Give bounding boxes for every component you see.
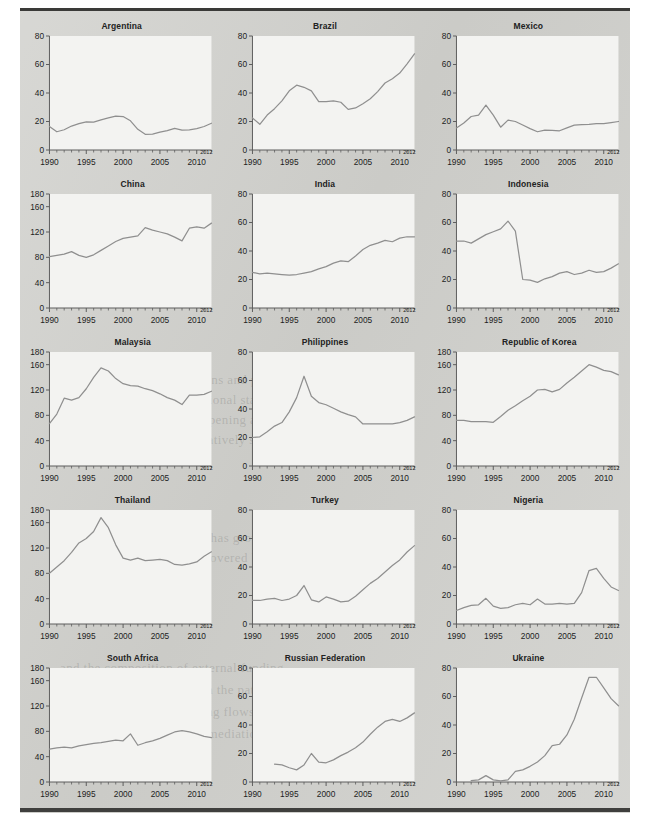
line-chart: 020406080199019952000200520102012	[427, 32, 626, 174]
x-end-label: 2012	[200, 149, 212, 155]
line-chart: 020406080199019952000200520102012	[223, 190, 422, 332]
y-tick-label: 160	[30, 676, 44, 686]
x-end-label: 2012	[404, 781, 416, 787]
plot-area: 020406080199019952000200520102012	[427, 664, 626, 806]
x-tick-label: 1990	[447, 789, 466, 799]
chart-panel: Argentina0204060801990199520002005201020…	[20, 16, 223, 174]
plot-area: 020406080199019952000200520102012	[223, 506, 422, 648]
y-tick-label: 80	[238, 190, 248, 199]
y-tick-label: 60	[441, 691, 451, 701]
y-tick-label: 80	[441, 664, 451, 673]
y-tick-label: 20	[35, 116, 45, 126]
x-tick-label: 2000	[317, 157, 336, 167]
x-tick-label: 2010	[391, 315, 410, 325]
y-tick-label: 0	[39, 619, 44, 629]
x-tick-label: 1990	[447, 157, 466, 167]
x-end-label: 2012	[200, 623, 212, 629]
chart-panel: Republic of Korea04080120160180199019952…	[427, 332, 630, 490]
chart-panel: Mexico020406080199019952000200520102012	[427, 16, 630, 174]
x-tick-label: 1995	[484, 631, 503, 641]
y-tick-label: 80	[441, 32, 451, 41]
line-chart: 04080120160180199019952000200520102012	[20, 190, 219, 332]
plot-area: 020406080199019952000200520102012	[427, 190, 626, 332]
x-tick-label: 2000	[114, 315, 133, 325]
chart-title: Philippines	[223, 337, 426, 347]
line-chart: 04080120160180199019952000200520102012	[20, 664, 219, 806]
y-tick-label: 60	[238, 533, 248, 543]
chart-title: Ukraine	[427, 653, 630, 663]
y-tick-label: 180	[30, 190, 44, 199]
y-tick-label: 20	[238, 274, 248, 284]
plot-area: 020406080199019952000200520102012	[427, 506, 626, 648]
x-end-label: 2012	[200, 307, 212, 313]
x-tick-label: 1995	[280, 473, 299, 483]
y-tick-label: 0	[243, 619, 248, 629]
x-tick-label: 2005	[354, 789, 373, 799]
y-tick-label: 80	[35, 252, 45, 262]
x-end-label: 2012	[404, 623, 416, 629]
y-tick-label: 80	[35, 726, 45, 736]
x-tick-label: 2010	[391, 789, 410, 799]
x-end-label: 2012	[607, 149, 619, 155]
chart-title: Malaysia	[20, 337, 223, 347]
y-tick-label: 60	[441, 217, 451, 227]
y-tick-label: 0	[446, 303, 451, 313]
y-tick-label: 80	[441, 190, 451, 199]
y-tick-label: 40	[238, 246, 248, 256]
plot-area: 020406080199019952000200520102012	[223, 32, 422, 174]
x-tick-label: 2010	[594, 631, 613, 641]
x-tick-label: 2000	[114, 631, 133, 641]
y-tick-label: 80	[238, 348, 248, 357]
x-tick-label: 1995	[280, 157, 299, 167]
x-tick-label: 2010	[594, 473, 613, 483]
y-tick-label: 80	[35, 410, 45, 420]
y-tick-label: 40	[238, 562, 248, 572]
y-tick-label: 20	[238, 432, 248, 442]
y-tick-label: 120	[30, 385, 44, 395]
x-tick-label: 2000	[520, 631, 539, 641]
y-tick-label: 180	[30, 348, 44, 357]
x-tick-label: 1990	[40, 315, 59, 325]
x-tick-label: 2010	[187, 315, 206, 325]
x-end-label: 2012	[404, 307, 416, 313]
x-tick-label: 1995	[484, 157, 503, 167]
chart-title: Turkey	[223, 495, 426, 505]
chart-title: Mexico	[427, 21, 630, 31]
y-tick-label: 40	[35, 752, 45, 762]
chart-panel: Malaysia04080120160180199019952000200520…	[20, 332, 223, 490]
page-rule-bottom	[20, 808, 630, 812]
y-tick-label: 0	[446, 145, 451, 155]
x-tick-label: 1995	[77, 789, 96, 799]
x-tick-label: 2010	[187, 789, 206, 799]
x-tick-label: 1990	[244, 631, 263, 641]
y-tick-label: 40	[238, 720, 248, 730]
y-tick-label: 160	[30, 202, 44, 212]
x-tick-label: 2000	[520, 315, 539, 325]
x-tick-label: 1990	[447, 473, 466, 483]
plot-area: 020406080199019952000200520102012	[20, 32, 219, 174]
y-tick-label: 40	[441, 562, 451, 572]
chart-title: Brazil	[223, 21, 426, 31]
chart-title: Nigeria	[427, 495, 630, 505]
x-tick-label: 1990	[40, 473, 59, 483]
x-tick-label: 1990	[40, 157, 59, 167]
y-tick-label: 0	[446, 619, 451, 629]
y-tick-label: 40	[35, 594, 45, 604]
y-tick-label: 40	[35, 436, 45, 446]
y-tick-label: 60	[441, 533, 451, 543]
x-end-label: 2012	[607, 781, 619, 787]
x-end-label: 2012	[200, 465, 212, 471]
y-tick-label: 60	[441, 59, 451, 69]
x-tick-label: 2005	[354, 157, 373, 167]
chart-panel: Turkey020406080199019952000200520102012	[223, 490, 426, 648]
scanned-page: their own national conditions and priori…	[0, 0, 650, 827]
x-tick-label: 2005	[151, 473, 170, 483]
chart-panel: Brazil020406080199019952000200520102012	[223, 16, 426, 174]
x-tick-label: 1995	[77, 631, 96, 641]
x-tick-label: 2010	[187, 473, 206, 483]
plot-area: 04080120160180199019952000200520102012	[20, 348, 219, 490]
x-tick-label: 2005	[354, 631, 373, 641]
x-tick-label: 2010	[391, 157, 410, 167]
y-tick-label: 120	[30, 227, 44, 237]
x-tick-label: 1990	[447, 315, 466, 325]
